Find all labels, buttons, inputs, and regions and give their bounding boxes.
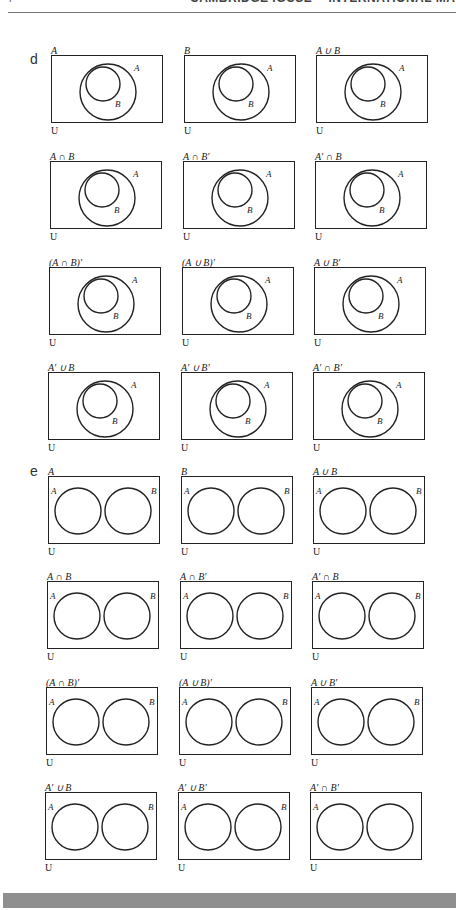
venn-circles: AB: [315, 161, 427, 229]
universal-set-label: U: [50, 231, 57, 242]
universal-set-label: U: [315, 231, 322, 242]
venn-panel: (A ∪ B)′ABU: [182, 257, 298, 347]
set-a-label: A: [266, 63, 273, 73]
venn-panel: A′ ∩ BABU: [315, 151, 431, 241]
set-b-label: B: [114, 205, 120, 215]
set-a-circle: [188, 488, 234, 534]
universal-set-label: U: [181, 546, 188, 557]
set-a-label: A: [132, 169, 139, 179]
set-b-label: B: [416, 486, 422, 496]
set-a-label: A: [265, 169, 272, 179]
venn-panel: BABU: [181, 466, 297, 556]
set-b-label: B: [148, 802, 154, 812]
set-a-label: A: [182, 591, 189, 601]
set-a-circle: [186, 699, 232, 745]
universal-set-label: U: [48, 442, 55, 453]
set-b-label: B: [282, 697, 288, 707]
universal-set-label: U: [178, 862, 185, 873]
set-b-circle: [86, 67, 120, 101]
venn-circles: AB: [48, 372, 160, 440]
header-rule: [8, 12, 456, 13]
set-b-circle: [104, 593, 150, 639]
venn-circles: AB: [312, 581, 424, 649]
universal-set-label: U: [316, 125, 323, 136]
set-b-label: B: [281, 802, 287, 812]
venn-circles: AB: [178, 792, 290, 860]
set-b-circle: [368, 699, 414, 745]
venn-panel: A ∩ BABU: [50, 151, 166, 241]
set-a-circle: [319, 593, 365, 639]
set-a-circle: [52, 804, 98, 850]
set-b-label: B: [414, 697, 420, 707]
set-a-label: A: [181, 697, 188, 707]
set-a-label: A: [315, 486, 322, 496]
universal-set-label: U: [183, 231, 190, 242]
venn-circles: AB: [183, 161, 295, 229]
venn-panel: (A ∪ B)′ABU: [179, 677, 295, 767]
set-b-circle: [83, 384, 117, 418]
section-letter-e: e: [30, 463, 38, 479]
set-b-circle: [102, 804, 148, 850]
section-letter-d: d: [30, 51, 38, 67]
venn-circles: AB: [182, 267, 294, 335]
universal-set-label: U: [180, 651, 187, 662]
set-a-label: A: [264, 275, 271, 285]
set-a-label: A: [48, 697, 55, 707]
universal-set-label: U: [47, 651, 54, 662]
universal-set-label: U: [51, 125, 58, 136]
venn-circles: AB: [316, 55, 428, 123]
set-b-circle: [216, 384, 250, 418]
universal-set-label: U: [181, 442, 188, 453]
set-b-label: B: [150, 591, 156, 601]
venn-panel: A ∩ BABU: [47, 571, 163, 661]
venn-circles: AB: [45, 792, 157, 860]
set-b-label: B: [377, 416, 383, 426]
set-a-circle: [317, 804, 363, 850]
set-a-circle: [53, 699, 99, 745]
venn-panel: A′ ∪ BABU: [45, 782, 161, 872]
venn-panel: BABU: [184, 45, 300, 135]
venn-panel: A′ ∩ BABU: [312, 571, 428, 661]
set-a-circle: [318, 699, 364, 745]
set-a-label: A: [397, 169, 404, 179]
venn-circles: AB: [51, 55, 163, 123]
venn-panel: A ∪ B′ABU: [314, 257, 430, 347]
set-a-label: A: [133, 63, 140, 73]
set-b-label: B: [112, 416, 118, 426]
set-b-label: B: [378, 311, 384, 321]
set-b-circle: [235, 804, 281, 850]
set-b-label: B: [247, 205, 253, 215]
set-b-circle: [370, 488, 416, 534]
set-b-circle: [349, 279, 383, 313]
set-b-label: B: [151, 486, 157, 496]
venn-panel: A ∪ BABU: [316, 45, 432, 135]
set-a-label: A: [314, 591, 321, 601]
universal-set-label: U: [313, 442, 320, 453]
set-b-circle: [218, 173, 252, 207]
set-b-circle: [350, 173, 384, 207]
set-b-circle: [85, 173, 119, 207]
venn-panel: A′ ∪ B′ABU: [181, 362, 297, 452]
venn-circles: AB: [50, 161, 162, 229]
set-a-label: A: [47, 802, 54, 812]
set-b-circle: [105, 488, 151, 534]
universal-set-label: U: [184, 125, 191, 136]
set-b-label: B: [283, 591, 289, 601]
running-header: CAMBRIDGE IGCSE™ INTERNATIONAL MATHEMATI…: [190, 0, 456, 5]
set-b-circle: [348, 384, 382, 418]
set-a-circle: [320, 488, 366, 534]
venn-circles: AB: [181, 476, 293, 544]
set-a-circle: [54, 593, 100, 639]
set-a-label: A: [312, 802, 319, 812]
set-b-label: B: [246, 311, 252, 321]
page-number-fragment: 7: [8, 0, 14, 4]
universal-set-label: U: [179, 757, 186, 768]
set-b-circle: [351, 67, 385, 101]
venn-circles: AB: [49, 267, 161, 335]
venn-panel: A′ ∪ B′ABU: [178, 782, 294, 872]
set-b-label: B: [415, 591, 421, 601]
set-b-circle: [237, 593, 283, 639]
set-b-label: B: [113, 311, 119, 321]
venn-panel: A ∪ BABU: [313, 466, 429, 556]
set-a-label: A: [263, 380, 270, 390]
